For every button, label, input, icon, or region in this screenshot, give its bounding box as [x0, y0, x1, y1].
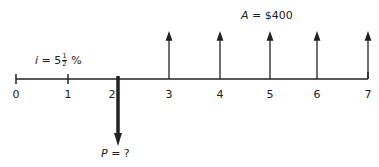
period-label-6: 6: [310, 88, 324, 101]
cash-flow-diagram: [0, 0, 379, 167]
period-label-7: 7: [361, 88, 375, 101]
period-label-0: 0: [9, 88, 23, 101]
period-label-2: 2: [105, 88, 119, 101]
axis-ticks: [16, 72, 368, 84]
present-value-label: P = ?: [101, 147, 130, 160]
period-label-1: 1: [61, 88, 75, 101]
period-label-3: 3: [162, 88, 176, 101]
present-value-arrow: [114, 76, 122, 146]
period-label-5: 5: [263, 88, 277, 101]
period-label-4: 4: [213, 88, 227, 101]
annuity-arrows: [167, 33, 371, 79]
annuity-label: A = $400: [241, 9, 293, 22]
interest-rate-label: i = 512 %: [35, 53, 82, 68]
